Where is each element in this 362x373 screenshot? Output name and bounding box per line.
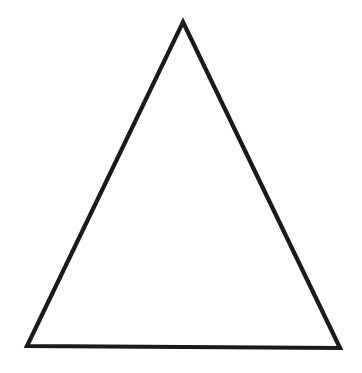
- figure-canvas: A black outlined triangle pointing upwar…: [0, 0, 362, 373]
- canvas-background: [0, 0, 362, 373]
- triangle-svg: [0, 0, 362, 373]
